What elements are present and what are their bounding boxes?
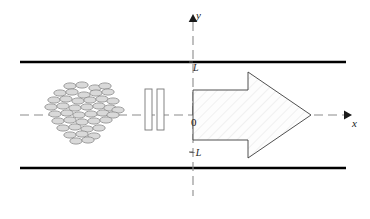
particle bbox=[49, 111, 61, 117]
particle bbox=[48, 97, 60, 103]
lower-wall-label: −L bbox=[189, 148, 201, 158]
particle bbox=[52, 118, 64, 124]
origin-label: 0 bbox=[191, 117, 197, 128]
x-axis-label: x bbox=[352, 118, 357, 129]
flow-arrow-shape bbox=[193, 72, 311, 158]
particle bbox=[84, 97, 96, 103]
particle bbox=[60, 96, 72, 102]
diagram-svg bbox=[0, 0, 370, 219]
particle bbox=[57, 103, 69, 109]
particle bbox=[64, 83, 76, 89]
particle bbox=[76, 82, 88, 88]
particle bbox=[81, 104, 93, 110]
particle bbox=[99, 83, 111, 89]
particle-cluster bbox=[45, 82, 124, 144]
upper-wall-label: L bbox=[193, 63, 199, 73]
particle bbox=[88, 118, 100, 124]
particle bbox=[54, 90, 66, 96]
particle bbox=[93, 103, 105, 109]
particle bbox=[82, 137, 94, 143]
particle bbox=[100, 117, 112, 123]
particle bbox=[102, 89, 114, 95]
particle bbox=[72, 98, 84, 104]
x-axis-arrowhead bbox=[344, 111, 352, 120]
particle bbox=[66, 89, 78, 95]
particle bbox=[45, 104, 57, 110]
particle bbox=[61, 110, 73, 116]
particle bbox=[85, 111, 97, 117]
particle bbox=[57, 125, 69, 131]
particle bbox=[107, 98, 119, 104]
flow-arrow bbox=[193, 72, 311, 158]
particle bbox=[70, 138, 82, 144]
particle bbox=[69, 124, 81, 130]
particle bbox=[73, 112, 85, 118]
particle bbox=[76, 131, 88, 137]
particle bbox=[64, 117, 76, 123]
particle bbox=[90, 90, 102, 96]
y-axis-label: y bbox=[196, 10, 201, 21]
figure-canvas: y x L 0 −L bbox=[0, 0, 370, 219]
particle bbox=[96, 96, 108, 102]
grid-plate-2 bbox=[157, 89, 164, 130]
grid-plates bbox=[145, 89, 164, 130]
particle bbox=[64, 132, 76, 138]
particle bbox=[93, 125, 105, 131]
grid-plate-1 bbox=[145, 89, 152, 130]
